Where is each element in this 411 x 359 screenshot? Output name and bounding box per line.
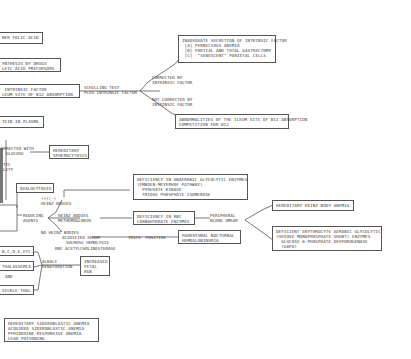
fetal-hgb-box: INCREASED FETAL HGB <box>80 256 110 276</box>
protein-plasma-box: TEIN IN PLASMA <box>0 116 44 128</box>
tic-ity-label: TIC LITY <box>3 162 13 172</box>
aerobic-deficiency-box: DEFICIENT ERYTHROCYTE AEROBIC GLYCOLYTIC… <box>272 226 382 251</box>
heinz-anemia-box: HEREDITARY HEINZ BODY ANEMIA <box>272 200 354 211</box>
hb-variants-box: B,C,D,E,ETC. <box>0 246 34 256</box>
heinz-plus-label: (+)(-) HEINZ BODIES <box>41 196 71 206</box>
corrected-glucose-label: ORRECTED WITH GLUCOSE <box>1 146 34 156</box>
rbc-ache-label: RBC ACETYLCHOLINESTERASE <box>55 246 116 251</box>
ovalocytosis-box: OVALOCYTOSIS <box>16 183 54 193</box>
schilling-test-label: SCHILLING TEST PLUS INTRINSIC FACTOR <box>84 85 137 95</box>
sickle-thal-box: SICKLE-THAL <box>0 285 34 295</box>
sideroblastic-box: HEREDITARY SIDEROBLASTIC ANEMIA ACQUIRED… <box>4 318 99 342</box>
folic-acid-box: BER FOLIC ACID <box>0 32 43 44</box>
inadequate-intrinsic-factor-box: INADEQUATE SECRETION OF INTRINSIC FACTOR… <box>178 35 276 63</box>
peripheral-smear-label: PERIPHERAL BLOOD SMEAR <box>210 213 238 223</box>
tests-positive-label: TESTS POSITIVE <box>128 235 166 240</box>
alkali-denaturation-label: ALKALI DENATURATION <box>42 259 72 269</box>
anaerobic-deficiency-box: DEFICIENCY IN ANAEROBIC GLYCOLYTIC ENZYM… <box>133 174 248 200</box>
rbc-carb-deficiency-box: DEFICIENCY IN RBC CARBOHYDRATE ENZYMES <box>133 211 195 225</box>
reducing-agents-label: REDUCING AGENTS <box>23 213 43 223</box>
left-bar <box>0 148 3 203</box>
thalassemia-box: THALASSEMIA <box>0 261 34 271</box>
corrected-if-label: CORRECTED BY INTRINSIC FACTOR <box>152 75 192 85</box>
heinz-methemo-label: HEINZ BODIES METHEMOGLOBIN <box>58 213 91 223</box>
hereditary-spherocytosis-box: HEREDITARY SPHEROCYTOSIS <box>49 145 89 159</box>
ileum-abnormalities-box: ABNORMALITIES OF THE ILEUM SITE OF B12 A… <box>175 114 289 129</box>
synthesis-drugs-box: YNTHESIS BY DRUGS LEIC ACID PRECURSORS <box>0 58 61 72</box>
not-corrected-if-label: NOT CORRECTED BY INTRINSIC FACTOR <box>152 97 192 107</box>
sucrose-label: SUCROSE HEMOLYSIS <box>66 240 109 245</box>
intrinsic-ileum-box: INTRINSIC FACTOR LEUM SITE OF B12 ABSORP… <box>0 84 80 98</box>
pnh-box: PAROXYSMAL NOCTURNAL HEMOGLOBINURIA <box>178 230 241 244</box>
and-label: AND <box>5 274 13 279</box>
